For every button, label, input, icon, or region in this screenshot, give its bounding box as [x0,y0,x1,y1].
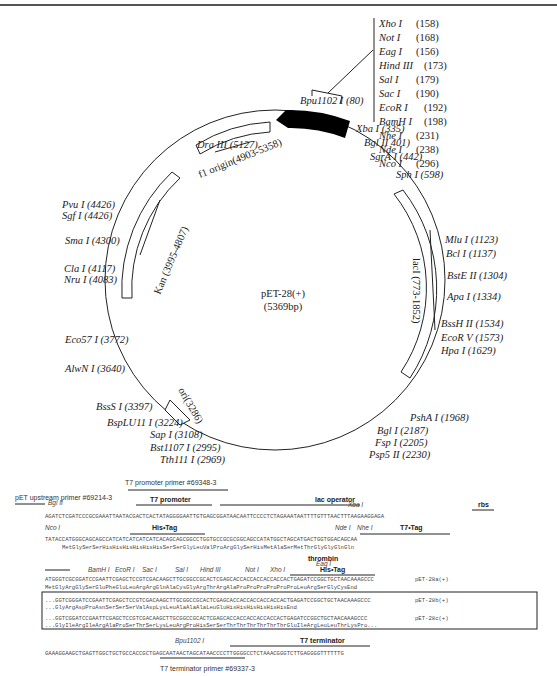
laci-label: lacI (773-1852) [410,258,422,324]
svg-text:Sph I (598): Sph I (598) [396,169,444,181]
plasmid-name: pET-28(+) [261,288,306,300]
svg-text:Xho I: Xho I [269,566,285,573]
svg-text:pET upstream primer #69214-3: pET upstream primer #69214-3 [15,494,112,502]
svg-text:Sgf I (4426): Sgf I (4426) [62,210,113,222]
svg-text:BssS I (3397): BssS I (3397) [96,401,153,413]
svg-text:Tth111 I (2969): Tth111 I (2969) [160,454,225,466]
svg-text:ATGGGTCGCGGATCCGAATTCGAGCTCCGT: ATGGGTCGCGGATCCGAATTCGAGCTCCGTCGACAAGCTT… [45,576,375,583]
svg-text:Hind III: Hind III [378,60,414,71]
svg-text:Eco57 I (3772): Eco57 I (3772) [64,334,129,346]
svg-text:...GlyArgAspProAsnSerSerSerVal: ...GlyArgAspProAsnSerSerSerValAspLysLeuA… [45,604,297,611]
svg-text:Sma I (4300): Sma I (4300) [65,235,120,247]
svg-text:T7•Tag: T7•Tag [400,524,423,532]
svg-text:Bcl I (1137): Bcl I (1137) [446,248,496,260]
svg-text:EcoR V (1573): EcoR V (1573) [440,332,504,344]
svg-text:BssH II (1534): BssH II (1534) [441,318,504,330]
svg-text:His•Tag: His•Tag [152,524,177,532]
svg-text:His•Tag: His•Tag [320,566,345,574]
svg-text:Bpu1102 I (80): Bpu1102 I (80) [300,95,364,107]
svg-text:Eag I: Eag I [378,46,403,57]
svg-text:...GlyIleArgIleArgAlaProSerThr: ...GlyIleArgIleArgAlaProSerThrSerLysLeuA… [45,622,377,629]
svg-text:Nco I: Nco I [45,524,60,531]
svg-text:Mlu I (1123): Mlu I (1123) [444,234,498,246]
svg-text:Sac I: Sac I [142,566,157,573]
svg-text:...GGTCGGGATCCGAATTCGAGCTCCGTC: ...GGTCGGGATCCGAATTCGAGCTCCGTCGACAAGCTTG… [45,597,371,604]
svg-text:T7 promoter: T7 promoter [150,496,191,504]
svg-text:Sal I: Sal I [175,566,188,573]
svg-text:Bst1107 I (2995): Bst1107 I (2995) [150,442,221,454]
svg-text:Cla I (4117): Cla I (4117) [64,263,116,275]
svg-text:Hpa I (1629): Hpa I (1629) [440,345,496,357]
svg-text:GAAAGGAAGCTGAGTTGGCTGCTGCCACCG: GAAAGGAAGCTGAGTTGGCTGCTGCCACCGCTGAGCAATA… [45,650,344,657]
mcs-arrow [276,110,350,138]
svg-text:rbs: rbs [478,501,489,508]
svg-text:Psp5 II (2230): Psp5 II (2230) [368,449,431,461]
kan-label: Kan (3995-4807) [152,224,192,296]
svg-text:(168): (168) [416,32,439,44]
svg-text:AlwN I (3640): AlwN I (3640) [64,363,126,375]
svg-text:Bgl I (2187): Bgl I (2187) [377,425,429,437]
svg-text:EcoR I: EcoR I [378,102,408,113]
svg-text:Pvu I (4426): Pvu I (4426) [61,199,116,211]
sequence-panel: T7 promoter primer #69348-3 pET upstream… [15,479,537,673]
svg-text:PshA I (1968): PshA I (1968) [409,412,469,424]
svg-text:Xba I (335): Xba I (335) [355,123,405,135]
svg-text:Bpu1102 I: Bpu1102 I [175,637,204,645]
svg-text:(156): (156) [416,46,439,58]
svg-text:(158): (158) [416,18,439,30]
svg-text:EcoR I: EcoR I [115,566,135,573]
svg-text:AGATCTCGATCCCGCGAAATTAATACGACT: AGATCTCGATCCCGCGAAATTAATACGACTCACTATAGGG… [45,513,385,520]
svg-text:T7 promoter primer #69348-3: T7 promoter primer #69348-3 [125,479,217,487]
svg-text:BamH I: BamH I [88,566,110,573]
svg-text:T7 terminator: T7 terminator [300,637,345,644]
svg-text:Nde I: Nde I [335,524,351,531]
svg-text:Not I: Not I [245,566,259,573]
svg-text:BstE II (1304): BstE II (1304) [447,270,508,282]
svg-text:MetGlyArgGlySerGluPheGluLeuArg: MetGlyArgGlySerGluPheGluLeuArgArgGlnAlaC… [45,584,357,591]
svg-text:...GGTCGGATCCGAATTCGAGCTCCGTCG: ...GGTCGGATCCGAATTCGAGCTCCGTCGACAAGCTTGC… [45,615,368,622]
svg-text:Sac I: Sac I [379,88,401,99]
svg-text:Nhe I: Nhe I [357,524,373,531]
svg-text:Xba I: Xba I [347,501,363,508]
plasmid-map: Xho I(158) Not I(168) Eag I(156) Hind II… [0,0,557,676]
svg-text:Bgl II 401): Bgl II 401) [364,137,411,149]
svg-text:T7 terminator primer #69337-3: T7 terminator primer #69337-3 [160,665,255,673]
svg-text:SgrA I (442): SgrA I (442) [370,151,423,163]
svg-text:(231): (231) [416,130,439,142]
svg-text:Xho I: Xho I [378,18,403,29]
svg-text:TATACCATGGGCAGCAGCCATCATCATCAT: TATACCATGGGCAGCAGCCATCATCATCATCATCACAGCA… [45,536,358,543]
svg-text:(198): (198) [424,116,447,128]
svg-text:Nru I (4083): Nru I (4083) [63,274,118,286]
svg-text:Apa I (1334): Apa I (1334) [446,291,501,303]
svg-text:Sap I (3108): Sap I (3108) [150,429,203,441]
svg-text:(190): (190) [416,88,439,100]
svg-text:Fsp I (2205): Fsp I (2205) [374,437,428,449]
plasmid-size: (5369bp) [264,301,303,313]
svg-text:(173): (173) [424,60,447,72]
svg-text:Not I: Not I [378,32,401,43]
svg-text:MetGlySerSerHisHisHisHisHisHis: MetGlySerSerHisHisHisHisHisHisSerSerGlyL… [62,544,354,551]
svg-text:BspLU11 I (3224): BspLU11 I (3224) [107,417,183,429]
svg-text:pET-28a(+): pET-28a(+) [415,576,449,583]
svg-text:Sal I: Sal I [379,74,399,85]
svg-text:pET-28b(+): pET-28b(+) [415,597,449,604]
svg-text:Bgl II: Bgl II [48,499,63,507]
svg-text:(179): (179) [416,74,439,86]
svg-text:pET-28c(+): pET-28c(+) [415,615,449,622]
svg-text:Hind III: Hind III [200,566,221,573]
svg-text:(192): (192) [424,102,447,114]
